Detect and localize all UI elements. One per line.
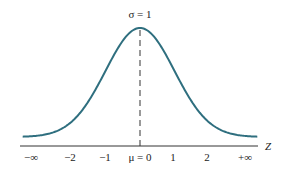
tick-label: 2 xyxy=(204,151,210,163)
sigma-annotation: σ = 1 xyxy=(128,8,151,20)
tick-label: −1 xyxy=(99,151,111,163)
tick-label: μ = 0 xyxy=(128,151,152,163)
x-axis-label: Z xyxy=(265,140,272,152)
tick-label: +∞ xyxy=(238,151,252,163)
normal-distribution-chart: σ = 1 Z −∞ −2 −1 μ = 0 1 2 +∞ xyxy=(0,0,289,171)
tick-label: −2 xyxy=(64,151,76,163)
tick-label: −∞ xyxy=(24,151,38,163)
tick-label: 1 xyxy=(170,151,176,163)
